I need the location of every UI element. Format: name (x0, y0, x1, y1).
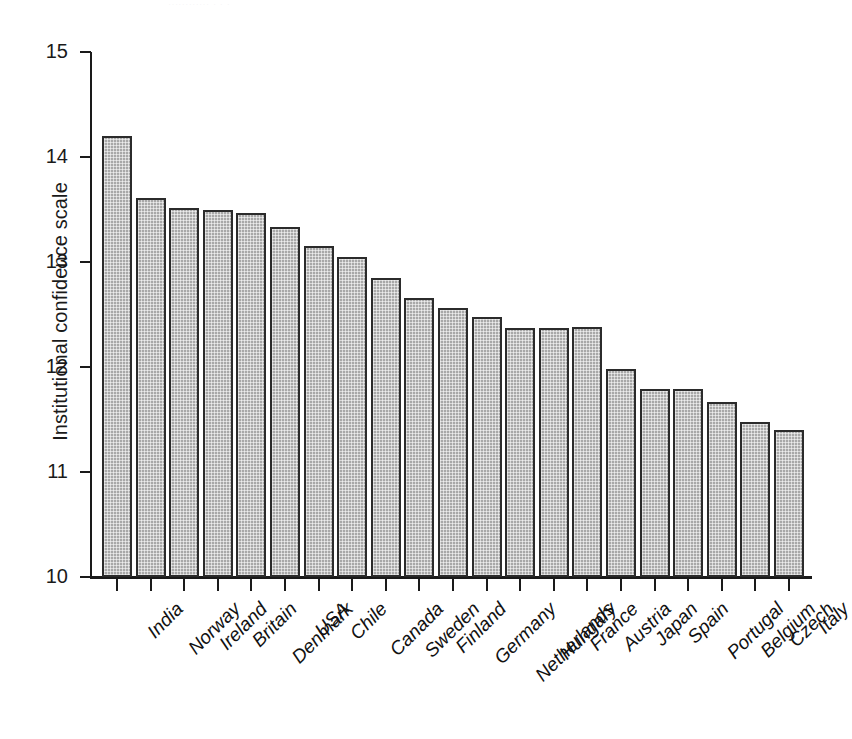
x-axis-tick (217, 579, 219, 591)
x-axis-tick (183, 579, 185, 591)
bar-germany (438, 308, 468, 577)
x-axis-tick (318, 579, 320, 591)
x-axis-tick (687, 579, 689, 591)
x-axis-tick (351, 579, 353, 591)
x-axis-tick (385, 579, 387, 591)
x-axis-tick (284, 579, 286, 591)
bar-belgium (707, 402, 737, 577)
bar-chile (304, 246, 334, 577)
bar-portugal (673, 389, 703, 577)
x-axis-tick (788, 579, 790, 591)
bar-czech (740, 422, 770, 577)
bar-norway (136, 198, 166, 577)
x-axis-tick (620, 579, 622, 591)
bar-canada (337, 257, 367, 577)
bar-france (539, 328, 569, 577)
bar-italy (774, 430, 804, 577)
x-axis-tick (418, 579, 420, 591)
bar-usa (270, 227, 300, 577)
bar-britain (203, 210, 233, 578)
bar-austria (572, 327, 602, 577)
x-axis-tick (586, 579, 588, 591)
x-axis-tick (721, 579, 723, 591)
x-axis-tick (150, 579, 152, 591)
bar-spain (640, 389, 670, 577)
x-axis-tick (486, 579, 488, 591)
x-axis-tick (116, 579, 118, 591)
bar-finland (404, 298, 434, 577)
bar-sweden (371, 278, 401, 577)
bar-japan (606, 369, 636, 577)
bar-netherlands (472, 317, 502, 577)
x-axis-tick (250, 579, 252, 591)
x-axis-tick (553, 579, 555, 591)
bar-hungary (505, 328, 535, 577)
bar-india (102, 136, 132, 577)
x-axis-tick (654, 579, 656, 591)
bar-ireland (169, 208, 199, 577)
x-axis-tick (452, 579, 454, 591)
x-axis-tick (519, 579, 521, 591)
bar-denmark (236, 213, 266, 577)
x-axis-tick (754, 579, 756, 591)
